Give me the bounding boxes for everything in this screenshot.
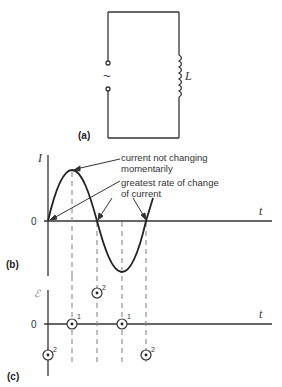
b-x-axis-label: t (259, 204, 263, 218)
c-y-axis-label: ℰ (34, 288, 41, 299)
annotation-peak-line2: momentarily (121, 163, 173, 174)
source-terminal-bottom (106, 87, 110, 91)
annotation-peak-line1: current not changing (121, 152, 208, 163)
b-y-axis-label: I (37, 151, 43, 165)
emf-graph: 2 1 2 1 2 ℰ t 0 (c) (7, 276, 272, 382)
marker-2-tag: 2 (102, 284, 106, 291)
c-origin-label: 0 (31, 319, 37, 330)
panel-b-label: (b) (6, 259, 19, 270)
marker-4-tag: 2 (151, 346, 155, 353)
circuit-diagram (106, 12, 182, 138)
current-graph: current not changing momentarily greates… (6, 151, 272, 276)
panel-c-label: (c) (7, 371, 19, 382)
marker-0-tag: 2 (53, 346, 57, 353)
diagram-canvas: ~ L (a) current not changing momentarily (0, 0, 282, 387)
inductor-label: L (184, 69, 192, 83)
panel-a-label: (a) (78, 130, 90, 141)
b-origin-label: 0 (31, 216, 37, 227)
inductor-coil-icon (179, 55, 182, 97)
c-x-axis-label: t (259, 307, 263, 321)
annotation-zero-line1: greatest rate of change (121, 177, 219, 188)
marker-1-tag: 1 (77, 313, 81, 320)
source-terminal-top (106, 61, 110, 65)
c-guides (72, 276, 146, 366)
marker-3-tag: 1 (127, 313, 131, 320)
annotation-zero-line2: of current (121, 188, 161, 199)
ac-source-symbol: ~ (103, 68, 111, 83)
